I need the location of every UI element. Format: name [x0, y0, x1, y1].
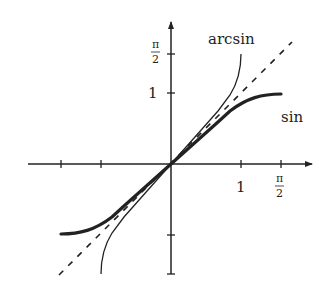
arcsin-label: arcsin: [208, 30, 255, 48]
function-plot: arcsin sin 1 π 2 1 π 2: [0, 0, 328, 299]
sin-label: sin: [281, 108, 303, 126]
y-tick-label-1: 1: [148, 84, 158, 102]
svg-text:2: 2: [276, 187, 283, 200]
svg-text:π: π: [152, 38, 159, 51]
x-tick-label-pi-over-2: π 2: [275, 172, 284, 200]
x-tick-label-1: 1: [236, 178, 246, 196]
y-tick-label-pi-over-2: π 2: [151, 38, 160, 66]
svg-text:π: π: [276, 172, 283, 185]
svg-text:2: 2: [152, 53, 159, 66]
